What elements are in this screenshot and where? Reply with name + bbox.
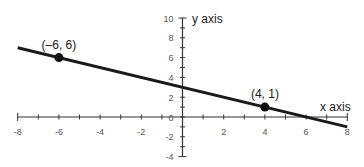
y-tick-label: 8 — [168, 33, 173, 43]
y-tick-label: 10 — [163, 14, 173, 24]
chart: -8-6-4-22468-4-20246810 (–6, 6)(4, 1) x … — [0, 0, 364, 167]
x-tick-label: 4 — [262, 127, 267, 137]
x-tick-label: -8 — [14, 127, 22, 137]
x-tick-label: 8 — [345, 127, 350, 137]
x-tick-label: 6 — [304, 127, 309, 137]
point-label: (–6, 6) — [42, 38, 77, 52]
y-tick-label: 2 — [168, 93, 173, 103]
y-axis-title: y axis — [192, 12, 223, 26]
y-tick-label: -2 — [165, 132, 173, 142]
data-point — [260, 103, 269, 112]
y-tick-label: 4 — [168, 73, 173, 83]
x-axis-title: x axis — [320, 100, 351, 114]
x-tick-label: 2 — [221, 127, 226, 137]
x-tick-label: -2 — [137, 127, 145, 137]
y-tick-label: 6 — [168, 53, 173, 63]
x-tick-label: -4 — [96, 127, 104, 137]
data-point — [54, 53, 63, 62]
point-label: (4, 1) — [251, 87, 279, 101]
y-tick-label: 0 — [168, 113, 173, 123]
y-tick-label: -4 — [165, 152, 173, 162]
x-tick-label: -6 — [55, 127, 63, 137]
